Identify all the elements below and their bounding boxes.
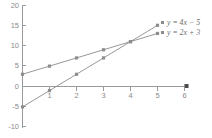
- legend-label-series-1: y = 2x + 3: [166, 28, 200, 37]
- legend-marker-series-0: [161, 21, 164, 24]
- chart-container: 20 15 10 5 0 -5 -10 1 2 3 4 5 6 y = 4x −…: [0, 0, 212, 138]
- data-point-s1-x1: [48, 65, 51, 68]
- legend-marker-series-1: [161, 31, 164, 34]
- series-line-1: [23, 33, 158, 74]
- x-axis-end-marker: [185, 84, 189, 88]
- x-tick-label-4: 4: [128, 91, 132, 100]
- data-point-s0-x3: [102, 56, 105, 59]
- x-tick-label-3: 3: [101, 91, 105, 100]
- y-tick-label-neg5: -5: [12, 102, 19, 111]
- y-tick-label-10: 10: [11, 41, 19, 50]
- x-tick-label-1: 1: [47, 91, 51, 100]
- y-tick-label-15: 15: [11, 21, 19, 30]
- y-tick-label-neg10: -10: [8, 122, 19, 131]
- y-tick-label-0: 0: [15, 82, 19, 91]
- x-tick-label-6: 6: [182, 91, 186, 100]
- x-tick-label-2: 2: [74, 91, 78, 100]
- legend-label-series-0: y = 4x − 5: [166, 18, 200, 27]
- data-point-s1-x3: [102, 48, 105, 51]
- data-point-s1-x5: [156, 32, 159, 35]
- x-tick-label-5: 5: [155, 91, 159, 100]
- line-chart: 20 15 10 5 0 -5 -10 1 2 3 4 5 6 y = 4x −…: [0, 0, 212, 138]
- y-tick-label-5: 5: [15, 61, 19, 70]
- data-point-s0-x0: [21, 105, 24, 108]
- data-point-s1-x0: [21, 73, 24, 76]
- data-point-s1-x4: [129, 40, 132, 43]
- y-tick-label-20: 20: [11, 1, 19, 10]
- data-point-s0-x1: [48, 89, 51, 92]
- data-point-s0-x5: [156, 24, 159, 27]
- series-line-0: [23, 25, 158, 107]
- legend: y = 4x − 5 y = 2x + 3: [161, 18, 200, 37]
- series-layer: [21, 24, 159, 109]
- data-point-s1-x2: [75, 56, 78, 59]
- data-point-s0-x2: [75, 73, 78, 76]
